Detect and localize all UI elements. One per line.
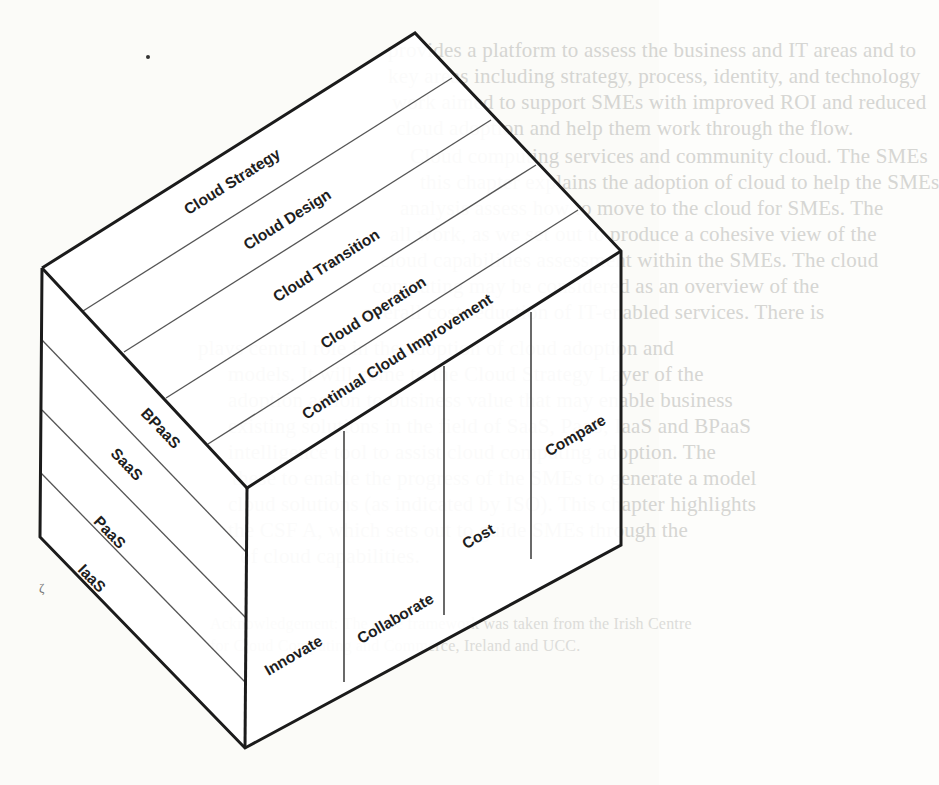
scan-speck xyxy=(146,55,150,59)
scan-mark: ζ xyxy=(39,580,45,595)
